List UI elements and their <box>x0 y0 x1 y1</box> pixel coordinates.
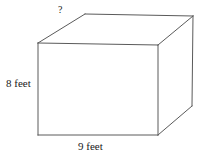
box-diagram-figure: 8 feet 9 feet ? <box>0 0 203 160</box>
box-front-face <box>38 43 158 135</box>
depth-dimension-label: ? <box>58 5 62 15</box>
height-dimension-label: 8 feet <box>6 78 31 89</box>
width-dimension-label: 9 feet <box>78 141 103 152</box>
